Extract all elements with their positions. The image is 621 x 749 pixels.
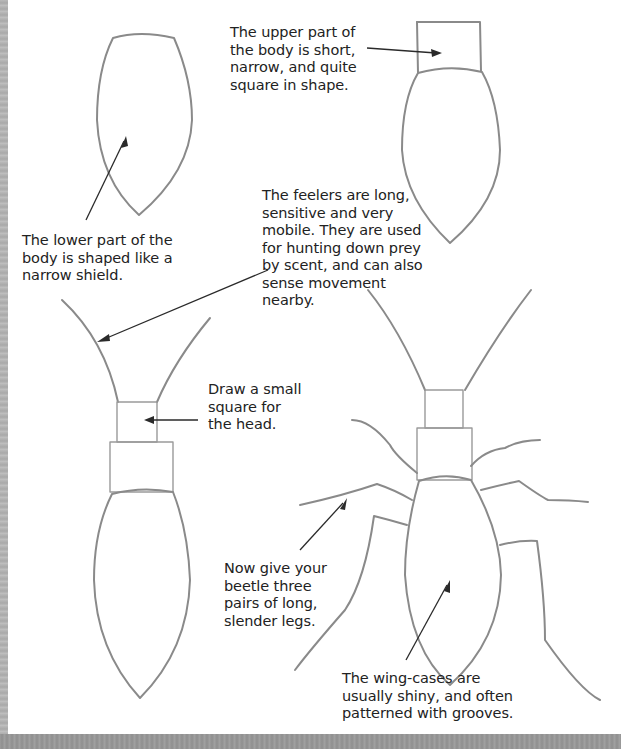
step2-arrow-icon <box>367 48 442 57</box>
step4-legs-arrow-icon <box>300 498 347 550</box>
beetle-drawing-steps <box>0 0 621 749</box>
step3-drawing <box>62 300 210 698</box>
step4-drawing <box>295 290 600 700</box>
step2-caption: The upper part of the body is short, nar… <box>230 24 357 94</box>
step1-caption: The lower part of the body is shaped lik… <box>22 232 172 285</box>
step1-arrow-icon <box>86 136 128 220</box>
step1-lower-body-drawing <box>97 34 192 215</box>
step3-head-arrow-icon <box>144 416 198 424</box>
step4-legs-caption: Now give your beetle three pairs of long… <box>224 560 327 630</box>
step4-wings-caption: The wing-cases are usually shiny, and of… <box>342 670 513 723</box>
step3-feelers-caption: The feelers are long, sensitive and very… <box>262 187 423 310</box>
step3-head-caption: Draw a small square for the head. <box>208 381 301 434</box>
